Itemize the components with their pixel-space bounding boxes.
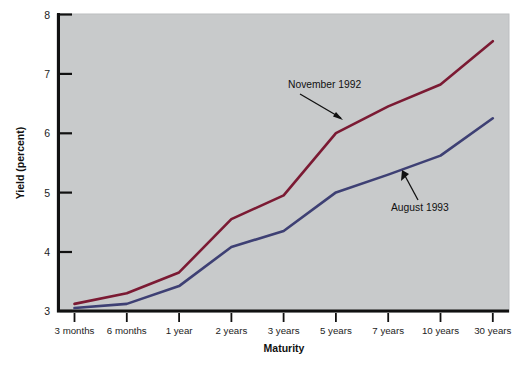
y-tick-label-5: 5 bbox=[44, 187, 50, 199]
x-tick-label-2-years: 2 years bbox=[216, 325, 248, 336]
x-tick-label-3-years: 3 years bbox=[268, 325, 300, 336]
y-tick-label-8: 8 bbox=[44, 9, 50, 21]
y-tick-label-7: 7 bbox=[44, 68, 50, 80]
plot-area-background bbox=[57, 14, 509, 312]
y-tick-label-4: 4 bbox=[44, 246, 50, 258]
y-tick-label-6: 6 bbox=[44, 127, 50, 139]
x-axis-tick-labels: 3 months 6 months 1 year 2 years 3 years… bbox=[55, 325, 512, 336]
annotation-august-1993-label: August 1993 bbox=[391, 202, 449, 213]
x-tick-label-7-years: 7 years bbox=[372, 325, 404, 336]
annotation-november-1992-label: November 1992 bbox=[288, 79, 362, 90]
x-tick-label-30-years: 30 years bbox=[474, 325, 511, 336]
yield-curve-figure: 8 7 6 5 4 3 Yield (percent) 3 months 6 m… bbox=[0, 0, 529, 366]
x-tick-label-1-year: 1 year bbox=[166, 325, 194, 336]
x-tick-label-5-years: 5 years bbox=[320, 325, 352, 336]
x-tick-label-3-months: 3 months bbox=[55, 325, 95, 336]
x-tick-label-10-years: 10 years bbox=[422, 325, 459, 336]
y-axis-title: Yield (percent) bbox=[14, 127, 26, 200]
yield-curve-chart: 8 7 6 5 4 3 Yield (percent) 3 months 6 m… bbox=[0, 0, 529, 366]
x-axis-title: Maturity bbox=[264, 342, 305, 354]
y-tick-label-3: 3 bbox=[44, 305, 50, 317]
x-tick-label-6-months: 6 months bbox=[107, 325, 147, 336]
